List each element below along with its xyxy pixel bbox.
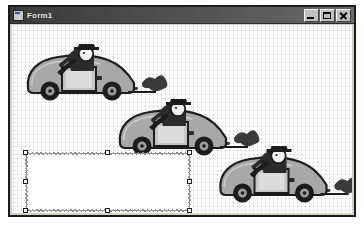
form-designer-window: Form1 (8, 5, 356, 217)
form-design-surface[interactable]: Start Faster Slower Stop Exit (12, 25, 352, 213)
selection-handle-e[interactable] (187, 179, 192, 184)
minimize-icon (307, 17, 314, 19)
selection-handle-n[interactable] (105, 150, 110, 155)
window-controls (304, 9, 351, 22)
selection-handle-w[interactable] (23, 179, 28, 184)
title-bar[interactable]: Form1 (10, 7, 354, 24)
picture-box-control[interactable] (26, 153, 190, 211)
selection-handle-se[interactable] (187, 208, 192, 213)
selection-handle-sw[interactable] (23, 208, 28, 213)
selection-handle-ne[interactable] (187, 150, 192, 155)
maximize-icon (323, 12, 331, 19)
selection-handle-nw[interactable] (23, 150, 28, 155)
close-button[interactable] (336, 9, 351, 22)
maximize-button[interactable] (320, 9, 335, 22)
window-title: Form1 (27, 11, 52, 20)
selection-handle-s[interactable] (105, 208, 110, 213)
vb-form-icon (13, 10, 24, 21)
minimize-button[interactable] (304, 9, 319, 22)
